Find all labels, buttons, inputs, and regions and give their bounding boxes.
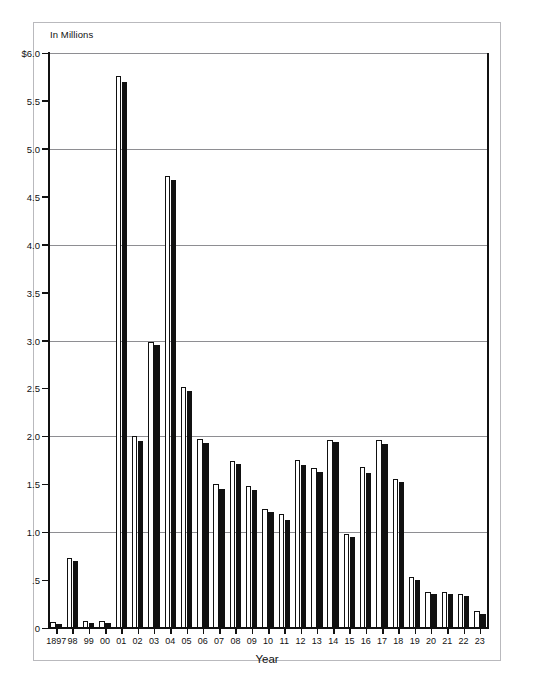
x-axis-tick [105,629,107,634]
x-axis-tick [138,629,140,634]
bar-white [279,514,284,628]
y-axis-caption: In Millions [50,29,93,40]
y-axis-tick-label: 1.0 [27,527,40,538]
y-axis-tick-label: 3.5 [27,287,40,298]
bar-black [301,465,306,628]
x-axis-tick [431,629,433,634]
bar-black [154,345,159,628]
bar-black [122,82,127,628]
bar-white [83,621,88,628]
bar-white [181,387,186,628]
x-axis-tick-label: 98 [67,636,77,646]
x-axis-tick [235,629,237,634]
x-axis-tick-label: 00 [100,636,110,646]
x-axis-tick-label: 99 [84,636,94,646]
x-axis-tick-label: 06 [198,636,208,646]
bar-white [376,440,381,628]
bar-white [197,439,202,628]
x-axis-tick [203,629,205,634]
bar-white [474,611,479,628]
bar-white [246,486,251,628]
x-axis-tick-label: 01 [116,636,126,646]
x-axis-tick [382,629,384,634]
x-axis-tick-label: 15 [344,636,354,646]
bar-white [458,594,463,628]
bar-white [116,76,121,628]
x-axis-tick-label: 14 [328,636,338,646]
bar-black [236,464,241,628]
x-axis-tick-label: 1897 [46,636,66,646]
x-axis-tick-label: 23 [475,636,485,646]
y-axis-tick-label: 3.0 [27,335,40,346]
bar-white [344,534,349,628]
bar-white [132,436,137,628]
bar-black [431,594,436,628]
bar-white [262,509,267,628]
bar-white [409,577,414,628]
x-axis-tick-label: 10 [263,636,273,646]
bar-black [89,623,94,628]
x-axis-tick [121,629,123,634]
bar-black [415,580,420,628]
bar-black [219,489,224,628]
x-axis-tick-label: 08 [230,636,240,646]
x-axis-tick-label: 22 [459,636,469,646]
x-axis-tick [447,629,449,634]
x-axis-tick [480,629,482,634]
bar-black [317,472,322,628]
bar-black [285,520,290,628]
x-axis-tick-label: 12 [296,636,306,646]
y-axis-tick-label: 0 [35,623,40,634]
x-axis-tick [464,629,466,634]
x-axis-tick-label: 17 [377,636,387,646]
x-axis-tick-label: 07 [214,636,224,646]
bar-black [252,490,257,628]
x-axis-tick-label: 03 [149,636,159,646]
bar-white [393,479,398,629]
y-axis-tick-label: 2.0 [27,431,40,442]
bar-black [268,512,273,628]
y-axis-tick-label: 4.0 [27,239,40,250]
bar-black [171,180,176,629]
x-axis-tick [170,629,172,634]
x-axis-tick [56,629,58,634]
bar-white [50,622,55,628]
bar-black [203,443,208,628]
x-axis-tick-label: 05 [182,636,192,646]
x-axis-tick [415,629,417,634]
x-axis-tick [398,629,400,634]
bar-white [425,592,430,628]
bar-white [67,558,72,628]
x-axis-tick [252,629,254,634]
x-axis-tick-label: 11 [280,636,289,646]
bar-black [350,537,355,628]
y-axis-tick-label: 2.5 [27,383,40,394]
x-axis-tick [284,629,286,634]
x-axis-tick [154,629,156,634]
x-axis-tick [333,629,335,634]
x-axis-tick [268,629,270,634]
bar-black [187,391,192,628]
x-axis-tick [187,629,189,634]
y-axis-tick-label: 5.0 [27,143,40,154]
y-axis-tick-label: 1.5 [27,479,40,490]
x-axis-tick-label: 19 [410,636,420,646]
chart-page: In Millions $6.05.55.04.54.03.53.02.52.0… [0,0,534,699]
x-axis-tick-label: 16 [361,636,371,646]
x-axis-tick-label: 04 [165,636,175,646]
y-axis-tick-label: .5 [32,575,40,586]
x-axis-tick [72,629,74,634]
y-axis-tick-label: $6.0 [22,48,41,59]
y-axis-tick-labels: $6.05.55.04.54.03.53.02.52.01.51.0.50 [0,0,40,699]
x-axis-tick-label: 20 [426,636,436,646]
x-axis-tick-label: 09 [247,636,257,646]
bar-white [99,621,104,628]
bar-black [56,624,61,628]
bar-black [333,442,338,628]
bar-black [448,594,453,628]
x-axis-tick-label: 18 [393,636,403,646]
bar-black [138,441,143,628]
bar-white [148,342,153,628]
bar-black [464,596,469,628]
bar-series-group [48,53,488,628]
